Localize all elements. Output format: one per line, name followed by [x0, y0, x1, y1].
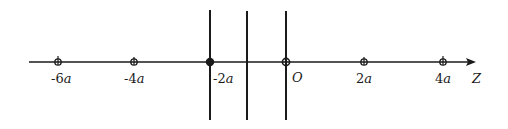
label-neg4a-variable: a	[137, 71, 145, 86]
label-neg6a-number: -6	[51, 71, 64, 86]
label-2a-variable: a	[364, 71, 372, 86]
label-4a: 4a	[435, 72, 451, 85]
label-neg4a-number: -4	[124, 71, 137, 86]
label-neg6a-variable: a	[64, 71, 72, 86]
point-marker-2a	[361, 57, 367, 65]
axis-label-z-text: Z	[472, 71, 481, 86]
label-neg2a-variable: a	[226, 71, 234, 86]
diagram-canvas: -6a -4a -2a O 2a 4a Z	[0, 0, 508, 129]
label-neg6a: -6a	[51, 72, 71, 85]
label-4a-variable: a	[443, 71, 451, 86]
label-origin: O	[292, 71, 303, 84]
diagram-svg	[0, 0, 508, 129]
axis-label-z: Z	[472, 72, 481, 85]
label-neg4a: -4a	[124, 72, 144, 85]
point-marker-neg6a	[55, 56, 61, 65]
label-neg2a: -2a	[213, 72, 233, 85]
label-neg2a-number: -2	[213, 71, 226, 86]
label-2a: 2a	[356, 72, 372, 85]
label-origin-variable: O	[292, 70, 303, 85]
point-marker-4a	[440, 56, 446, 65]
point-marker-neg4a	[131, 57, 137, 65]
point-marker-neg2a	[206, 58, 213, 65]
